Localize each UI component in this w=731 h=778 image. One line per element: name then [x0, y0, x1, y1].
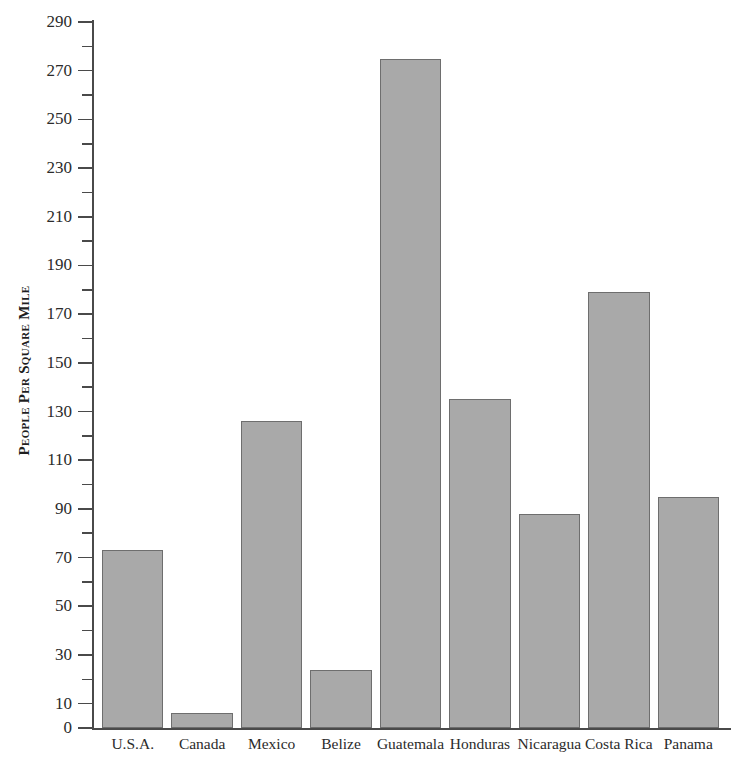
y-tick-minor: [82, 240, 93, 242]
y-tick-label: 150: [20, 354, 72, 371]
y-tick-minor: [82, 532, 93, 534]
y-tick-label: 290: [20, 13, 72, 30]
y-tick-major: [78, 70, 93, 72]
bar-chart: People Per Square Mile 01030507090110130…: [0, 0, 731, 778]
y-tick-major: [78, 21, 93, 23]
y-tick-minor: [82, 338, 93, 340]
y-tick-label: 30: [20, 646, 72, 663]
y-tick-label: 210: [20, 208, 72, 225]
y-axis-line: [92, 20, 94, 730]
plot-area: 0103050709011013015017019021023025027029…: [0, 0, 731, 778]
bar-mexico: [241, 421, 302, 728]
y-tick-major: [78, 459, 93, 461]
bar-u-s-a: [102, 550, 163, 728]
y-tick-major: [78, 313, 93, 315]
bar-honduras: [449, 399, 510, 728]
bar-guatemala: [380, 59, 441, 728]
bar-costa-rica: [588, 292, 649, 728]
y-tick-major: [78, 557, 93, 559]
y-tick-label: 230: [20, 159, 72, 176]
y-tick-major: [78, 508, 93, 510]
bar-canada: [171, 713, 232, 728]
y-tick-major: [78, 265, 93, 267]
y-tick-label: 110: [20, 451, 72, 468]
y-tick-major: [78, 654, 93, 656]
bar-nicaragua: [519, 514, 580, 728]
bar-belize: [310, 670, 371, 728]
y-tick-minor: [82, 94, 93, 96]
y-tick-minor: [82, 289, 93, 291]
y-tick-label: 190: [20, 256, 72, 273]
x-axis-line: [92, 728, 731, 730]
y-tick-major: [78, 605, 93, 607]
y-tick-major: [78, 411, 93, 413]
x-tick-label: Panama: [642, 735, 731, 752]
y-tick-minor: [82, 192, 93, 194]
y-tick-label: 270: [20, 62, 72, 79]
y-tick-minor: [82, 435, 93, 437]
y-tick-label: 170: [20, 305, 72, 322]
y-tick-minor: [82, 143, 93, 145]
y-tick-label: 70: [20, 549, 72, 566]
y-tick-major: [78, 362, 93, 364]
y-tick-label: 130: [20, 403, 72, 420]
y-tick-label: 90: [20, 500, 72, 517]
y-tick-label: 50: [20, 597, 72, 614]
y-tick-label: 0: [20, 719, 72, 736]
y-tick-minor: [82, 386, 93, 388]
y-tick-major: [78, 167, 93, 169]
y-tick-label: 250: [20, 110, 72, 127]
y-tick-major: [78, 727, 93, 729]
y-tick-minor: [82, 679, 93, 681]
y-tick-minor: [82, 46, 93, 48]
y-tick-minor: [82, 581, 93, 583]
bar-panama: [658, 497, 719, 728]
y-tick-major: [78, 216, 93, 218]
y-tick-major: [78, 119, 93, 121]
y-tick-major: [78, 703, 93, 705]
y-tick-minor: [82, 630, 93, 632]
y-tick-label: 10: [20, 695, 72, 712]
y-tick-minor: [82, 484, 93, 486]
